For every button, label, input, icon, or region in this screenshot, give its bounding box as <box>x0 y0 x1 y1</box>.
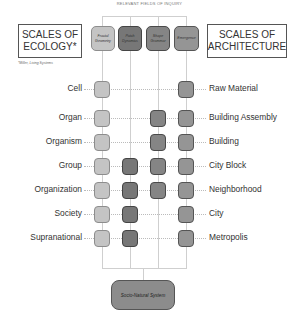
socio-natural-system-label: Socio-Natural System <box>121 293 165 298</box>
field-node <box>178 182 194 199</box>
top-bracket <box>102 16 187 17</box>
ecology-scale-label: Organism <box>2 136 82 146</box>
architecture-scale-label: Building <box>209 136 239 146</box>
field-label: Grammar <box>150 39 165 43</box>
scales-of-architecture-box: SCALES OFARCHITECTURE <box>207 24 287 58</box>
architecture-scale-label: City <box>209 208 223 218</box>
architecture-scale-label: Metropolis <box>209 232 248 242</box>
field-node <box>150 158 166 175</box>
architecture-title-line1: SCALES OF <box>219 29 275 40</box>
field-label: Shape <box>153 34 163 38</box>
ecology-scale-label: Group <box>2 160 82 170</box>
field-node <box>94 230 110 247</box>
field-node <box>150 134 166 151</box>
architecture-title-line2: ARCHITECTURE <box>208 41 286 52</box>
architecture-scale-label: Neighborhood <box>209 184 262 194</box>
bottom-connector <box>143 268 144 280</box>
field-node <box>150 182 166 199</box>
field-node <box>122 158 138 175</box>
architecture-scale-label: Building Assembly <box>209 112 277 122</box>
field-node <box>150 110 166 127</box>
field-node <box>178 110 194 127</box>
ecology-scale-label: Cell <box>2 83 82 93</box>
ecology-scale-label: Society <box>2 208 82 218</box>
ecology-scale-label: Supranational <box>2 232 82 242</box>
field-header-shape-grammar: ShapeGrammar <box>146 26 170 51</box>
field-label: Patch <box>125 34 134 38</box>
architecture-scale-label: Raw Material <box>209 83 258 93</box>
field-node <box>178 206 194 223</box>
field-node <box>94 206 110 223</box>
field-label: Emergence <box>177 36 195 40</box>
field-node <box>94 158 110 175</box>
ecology-scale-label: Organ <box>2 112 82 122</box>
field-header-emergence: Emergence <box>174 26 199 51</box>
ecology-scale-label: Organization <box>2 184 82 194</box>
diagram-title: RELEVANT FIELDS OF INQUIRY <box>0 1 299 6</box>
field-node <box>178 134 194 151</box>
field-node <box>94 81 110 98</box>
field-node <box>122 182 138 199</box>
field-node <box>178 230 194 247</box>
field-label: Geometry <box>95 39 111 43</box>
ecology-title-line1: SCALES OF <box>22 29 78 40</box>
field-header-fractal-geometry: FractalGeometry <box>91 26 115 51</box>
bottom-bracket <box>102 268 187 269</box>
field-node <box>94 110 110 127</box>
ecology-title-line2: ECOLOGY* <box>23 41 76 52</box>
scales-of-ecology-box: SCALES OFECOLOGY* <box>18 24 82 58</box>
field-node <box>178 81 194 98</box>
architecture-scale-label: City Block <box>209 160 246 170</box>
field-node <box>178 158 194 175</box>
field-header-patch-dynamics: PatchDynamics <box>118 26 142 51</box>
socio-natural-system-box: Socio-Natural System <box>111 280 175 310</box>
field-label: Fractal <box>98 34 109 38</box>
field-node <box>122 206 138 223</box>
field-node <box>94 182 110 199</box>
field-label: Dynamics <box>122 39 138 43</box>
footnote: *Miller, Living Systems <box>18 61 53 65</box>
field-node <box>122 230 138 247</box>
field-node <box>94 134 110 151</box>
